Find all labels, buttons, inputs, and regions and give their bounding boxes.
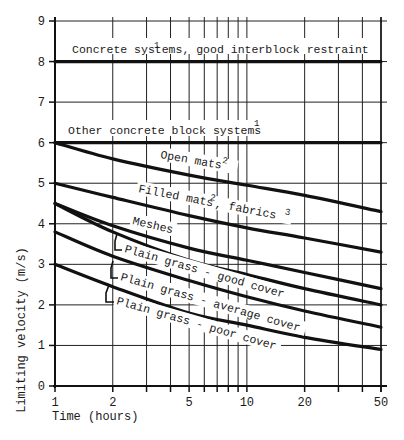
x-tick-label: 10 xyxy=(240,396,254,410)
limiting-velocity-chart: 0123456789 125102050 Concrete systems, g… xyxy=(0,0,404,440)
label-open-mats: Open mats xyxy=(159,148,222,172)
x-tick-label: 50 xyxy=(374,396,388,410)
series-line-3 xyxy=(55,183,381,252)
leader-grass-average xyxy=(111,261,118,278)
y-tick-labels: 0123456789 xyxy=(38,15,45,394)
y-tick-label: 3 xyxy=(38,258,45,272)
y-tick-label: 2 xyxy=(38,299,45,313)
label-other-concrete: Other concrete block systems xyxy=(68,124,261,137)
y-axis-label: Limiting velocity (m/s) xyxy=(15,247,29,413)
x-tick-labels: 125102050 xyxy=(51,396,388,410)
x-tick-label: 2 xyxy=(109,396,116,410)
label-fabrics: , fabrics xyxy=(214,197,277,222)
x-axis-label: Time (hours) xyxy=(52,410,138,424)
y-tick-label: 7 xyxy=(38,96,45,110)
label-concrete-good-sup: 1 xyxy=(154,41,159,51)
x-tick-label: 20 xyxy=(297,396,311,410)
x-tick-label: 5 xyxy=(186,396,193,410)
y-tick-label: 8 xyxy=(38,56,45,70)
label-concrete-good: Concrete systems, good interblock restra… xyxy=(72,43,369,56)
y-tick-label: 1 xyxy=(38,339,45,353)
y-tick-label: 6 xyxy=(38,137,45,151)
y-tick-label: 9 xyxy=(38,15,45,29)
x-tick-label: 1 xyxy=(51,396,58,410)
y-tick-label: 0 xyxy=(38,380,45,394)
y-tick-label: 5 xyxy=(38,177,45,191)
y-tick-label: 4 xyxy=(38,218,45,232)
label-other-concrete-sup: 1 xyxy=(254,119,259,129)
